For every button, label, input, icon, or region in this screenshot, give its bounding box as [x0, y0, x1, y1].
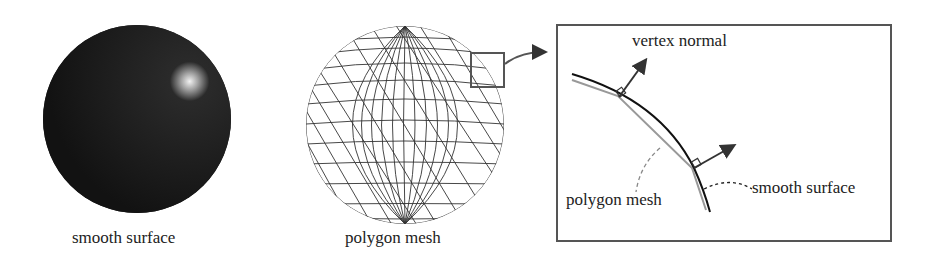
smooth-surface-caption: smooth surface [72, 228, 175, 248]
smooth-sphere [43, 25, 231, 213]
zoom-arrow [505, 52, 544, 64]
vertex-normal-label: vertex normal [632, 31, 727, 51]
smooth-surface-detail-label: smooth surface [752, 178, 855, 198]
mesh-sphere [300, 24, 510, 230]
polygon-mesh-caption: polygon mesh [345, 228, 441, 248]
polygon-mesh-detail-label: polygon mesh [566, 190, 662, 210]
